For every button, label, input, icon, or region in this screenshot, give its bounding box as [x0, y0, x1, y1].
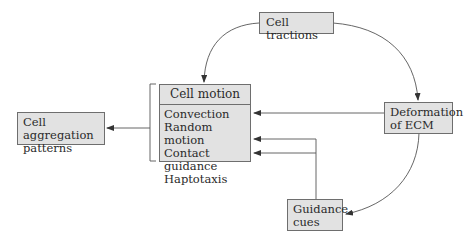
node-label-line2: of ECM [390, 119, 447, 132]
node-cell-aggregation: Cell aggregation patterns [17, 112, 105, 145]
mechanism-list: Convection Random motion Contact guidanc… [160, 105, 250, 189]
list-item-haptotaxis: Haptotaxis [164, 173, 246, 186]
list-item-random-motion: Random motion [164, 121, 246, 147]
edge-tractions-to-motion [204, 23, 259, 82]
node-cell-motion: Cell motion Convection Random motion Con… [159, 84, 251, 162]
node-cell-tractions: Cell tractions [259, 12, 334, 34]
list-item-contact-guidance: Contact guidance [164, 147, 246, 173]
node-label-line2: patterns [23, 142, 99, 155]
node-guidance-cues: Guidance cues [287, 199, 343, 231]
edge-deformation-to-guidance [346, 133, 419, 214]
cell-motion-bracket [150, 84, 156, 161]
node-deformation-ecm: Deformation of ECM [384, 102, 453, 134]
node-label: Cell tractions [260, 13, 333, 45]
edge-tractions-to-deformation [333, 23, 418, 100]
node-label-line2: cues [293, 216, 337, 229]
node-title: Cell motion [160, 85, 250, 105]
node-label-line1: Cell aggregation [23, 116, 99, 142]
